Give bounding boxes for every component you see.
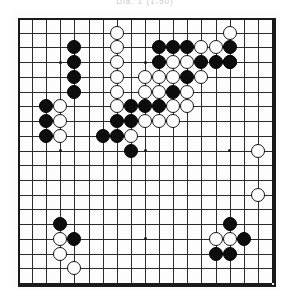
star-point [144,237,147,240]
grid-line-horizontal [18,180,272,181]
star-point [228,149,231,152]
white-stone[interactable] [53,232,67,246]
board-grid [18,18,272,283]
black-stone[interactable] [152,99,166,113]
grid-line-horizontal [18,268,272,269]
white-stone[interactable] [166,55,180,69]
black-stone[interactable] [166,85,180,99]
black-stone[interactable] [138,99,152,113]
grid-line-horizontal [18,195,272,196]
black-stone[interactable] [39,129,53,143]
white-stone[interactable] [166,70,180,84]
white-stone[interactable] [180,85,194,99]
black-stone[interactable] [39,114,53,128]
white-stone[interactable] [194,40,208,54]
white-stone[interactable] [209,40,223,54]
white-stone[interactable] [209,232,223,246]
white-stone[interactable] [152,85,166,99]
white-stone[interactable] [138,114,152,128]
white-stone[interactable] [110,99,124,113]
black-stone[interactable] [237,232,251,246]
white-stone[interactable] [110,70,124,84]
white-stone[interactable] [53,247,67,261]
black-stone[interactable] [67,85,81,99]
star-point [59,61,62,64]
go-diagram [0,0,290,299]
white-stone[interactable] [124,129,138,143]
grid-line-vertical [272,18,274,283]
black-stone[interactable] [67,40,81,54]
black-stone[interactable] [124,144,138,158]
grid-line-horizontal [18,283,272,285]
black-stone[interactable] [223,40,237,54]
white-stone[interactable] [110,26,124,40]
star-point [144,149,147,152]
white-stone[interactable] [251,144,265,158]
white-stone[interactable] [110,55,124,69]
black-stone[interactable] [223,247,237,261]
black-stone[interactable] [152,55,166,69]
black-stone[interactable] [110,114,124,128]
grid-line-horizontal [18,165,272,166]
board-surface[interactable] [10,11,280,290]
black-stone[interactable] [110,129,124,143]
white-stone[interactable] [251,188,265,202]
black-stone[interactable] [223,217,237,231]
black-stone[interactable] [180,40,194,54]
white-stone[interactable] [138,70,152,84]
white-stone[interactable] [180,55,194,69]
black-stone[interactable] [124,99,138,113]
white-stone[interactable] [53,99,67,113]
star-point [144,61,147,64]
white-stone[interactable] [152,114,166,128]
black-stone[interactable] [152,40,166,54]
white-stone[interactable] [223,232,237,246]
white-stone[interactable] [53,114,67,128]
black-stone[interactable] [124,114,138,128]
white-stone[interactable] [110,40,124,54]
black-stone[interactable] [194,55,208,69]
black-stone[interactable] [209,55,223,69]
grid-line-horizontal [18,209,272,210]
black-stone[interactable] [209,247,223,261]
black-stone[interactable] [180,70,194,84]
black-stone[interactable] [166,40,180,54]
black-stone[interactable] [39,99,53,113]
black-stone[interactable] [53,217,67,231]
star-point [59,149,62,152]
white-stone[interactable] [166,114,180,128]
black-stone[interactable] [67,70,81,84]
white-stone[interactable] [152,70,166,84]
white-stone[interactable] [223,26,237,40]
black-stone[interactable] [67,232,81,246]
white-stone[interactable] [53,129,67,143]
white-stone[interactable] [110,85,124,99]
white-stone[interactable] [194,70,208,84]
white-stone[interactable] [138,85,152,99]
white-stone[interactable] [166,99,180,113]
black-stone[interactable] [223,55,237,69]
black-stone[interactable] [67,55,81,69]
white-stone[interactable] [180,99,194,113]
black-stone[interactable] [96,129,110,143]
white-stone[interactable] [67,261,81,275]
